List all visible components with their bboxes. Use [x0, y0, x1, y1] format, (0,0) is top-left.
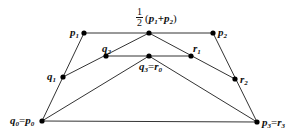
point-p3 — [254, 119, 259, 124]
point-p2 — [210, 30, 215, 35]
label-q2: q2 — [102, 43, 111, 56]
label-q0-p0: q0=p0 — [10, 115, 34, 128]
label-r1: r1 — [193, 43, 201, 56]
diagram-canvas: p1 p2 1 2 (p1+p2) q2 r1 q3=r0 q1 r2 q0=p… — [0, 0, 298, 139]
label-q3-r0: q3=r0 — [139, 61, 162, 74]
point-q3 — [146, 53, 151, 58]
edge-p0-p3 — [42, 121, 257, 122]
label-mid-fraction: 1 2 — [136, 7, 143, 28]
label-q1: q1 — [47, 71, 56, 84]
label-p1: p1 — [70, 27, 79, 40]
label-p2: p2 — [218, 27, 227, 40]
point-p0 — [39, 118, 44, 123]
label-p3-r3: p3=r3 — [262, 117, 285, 130]
point-p1 — [81, 30, 86, 35]
point-q1 — [60, 74, 65, 79]
label-r2: r2 — [240, 74, 248, 87]
label-mid-expression: (p1+p2) — [145, 13, 177, 26]
point-mid — [146, 30, 151, 35]
point-r2 — [232, 76, 237, 81]
